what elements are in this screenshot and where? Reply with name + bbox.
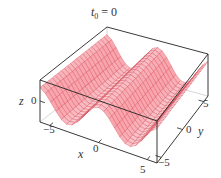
y-tick-5: 5 [203,98,209,109]
title-equals: = 0 [98,5,117,19]
x-axis-label: x [78,148,83,160]
x-tick-0: 0 [93,143,99,154]
x-tick-neg5: −5 [43,124,55,135]
z-axis-label: z [19,95,24,107]
y-tick-neg5: −5 [158,157,170,168]
x-tick-5: 5 [140,164,146,175]
chart-title: t0 = 0 [91,6,117,21]
y-tick-0: 0 [186,124,192,135]
z-tick-0: 0 [31,95,37,106]
y-axis-label: y [198,125,203,137]
surface-plot [0,0,221,178]
